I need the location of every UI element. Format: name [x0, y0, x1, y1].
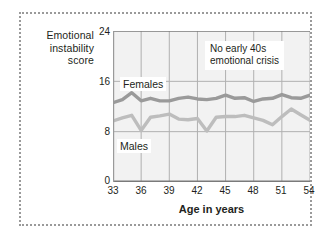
chart-figure: Emotional instability score 24 16 8 0 33… [0, 0, 331, 239]
x-tick-36: 36 [129, 185, 153, 196]
x-tick-48: 48 [241, 185, 265, 196]
annotation-callout: No early 40s emotional crisis [205, 41, 284, 70]
x-tick-51: 51 [269, 185, 293, 196]
annotation-line-2: emotional crisis [210, 55, 279, 67]
x-tick-54: 54 [297, 185, 321, 196]
x-tick-42: 42 [185, 185, 209, 196]
series-label-females: Females [120, 77, 166, 91]
x-axis-title: Age in years [113, 203, 310, 215]
annotation-line-1: No early 40s [210, 43, 279, 55]
x-tick-33: 33 [101, 185, 125, 196]
x-tick-45: 45 [213, 185, 237, 196]
series-label-males: Males [117, 139, 151, 153]
x-tick-39: 39 [157, 185, 181, 196]
